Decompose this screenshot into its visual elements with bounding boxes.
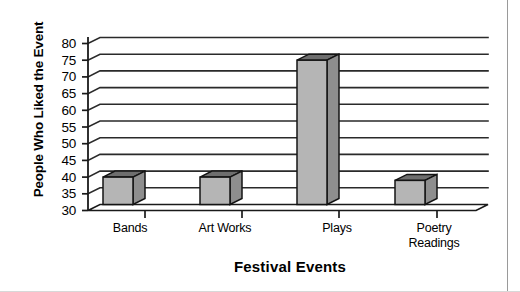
y-tick-label-60: 60	[46, 104, 76, 118]
y-tick-label-40: 40	[46, 171, 76, 185]
x-tick-label-plays: Plays	[292, 221, 382, 236]
y-tick-label-35: 35	[46, 187, 76, 201]
x-tick-label-art-works-line1: Art Works	[199, 221, 252, 235]
bar-bands[interactable]	[103, 171, 145, 204]
y-tick-label-80: 80	[46, 37, 76, 51]
y-tick-label-55: 55	[46, 121, 76, 135]
y-tick-label-75: 75	[46, 54, 76, 68]
chart-page: People Who Liked the Event	[0, 0, 520, 292]
chart-floor	[88, 205, 488, 211]
y-tick-label-50: 50	[46, 137, 76, 151]
y-tick-label-70: 70	[46, 70, 76, 84]
y-tick-label-30: 30	[46, 204, 76, 218]
bar-plays[interactable]	[297, 54, 339, 204]
x-tick-label-art-works: Art Works	[177, 221, 273, 236]
x-axis-ticks	[145, 211, 437, 219]
y-tick-label-45: 45	[46, 154, 76, 168]
bar-poetry-readings[interactable]	[395, 174, 437, 204]
gridlines	[88, 38, 488, 194]
bar-art-works[interactable]	[200, 171, 242, 204]
x-axis-title: Festival Events	[90, 258, 490, 275]
y-tick-label-65: 65	[46, 87, 76, 101]
x-tick-label-poetry-line2: Readings	[408, 236, 459, 250]
x-tick-label-poetry-line1: Poetry	[417, 221, 452, 235]
x-tick-label-bands-line1: Bands	[113, 221, 147, 235]
x-tick-label-bands: Bands	[85, 221, 175, 236]
x-tick-label-poetry-readings: Poetry Readings	[386, 221, 482, 251]
x-tick-label-plays-line1: Plays	[322, 221, 352, 235]
